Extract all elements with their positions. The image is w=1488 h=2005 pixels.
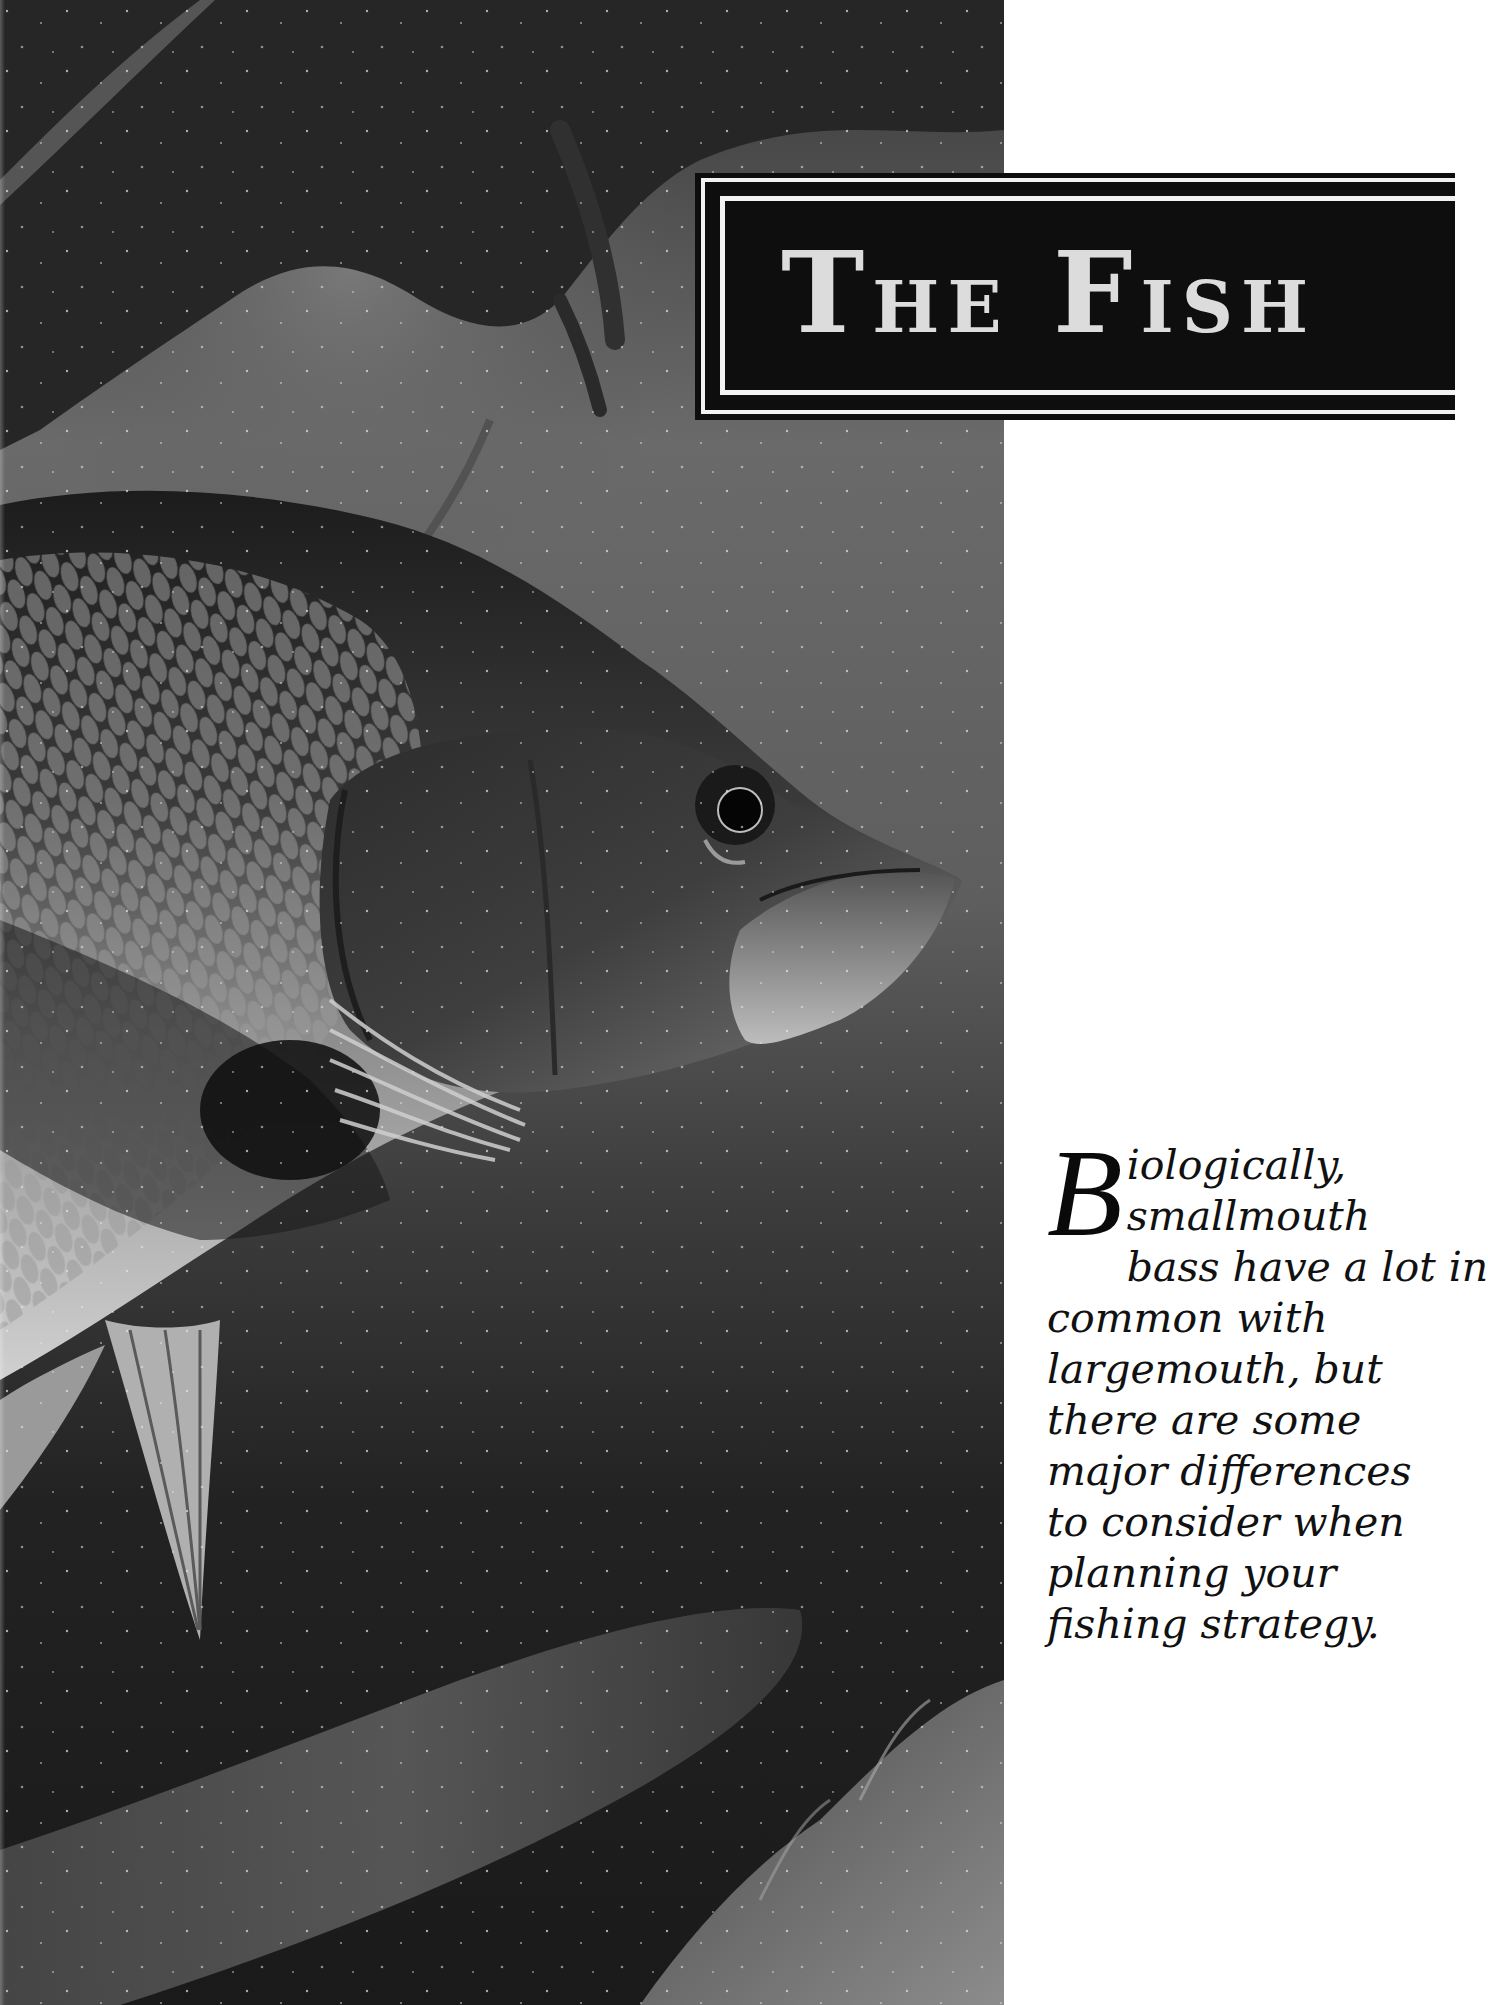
drop-cap: B xyxy=(1047,1146,1123,1246)
intro-line: planning your xyxy=(1047,1548,1467,1599)
title-banner: The Fish xyxy=(695,173,1455,420)
intro-line: major differences xyxy=(1047,1446,1467,1497)
intro-line: common with xyxy=(1047,1293,1467,1344)
intro-paragraph: B iologically, smallmouth bass have a lo… xyxy=(1047,1140,1467,1650)
page-title: The Fish xyxy=(781,243,1316,346)
intro-line: to consider when xyxy=(1047,1497,1467,1548)
title-word-2-rest: ish xyxy=(1141,236,1317,356)
intro-line: there are some xyxy=(1047,1395,1467,1446)
intro-line: largemouth, but xyxy=(1047,1344,1467,1395)
title-cap-t: T xyxy=(781,227,872,358)
binding-edge xyxy=(0,0,5,2005)
title-cap-f: F xyxy=(1053,227,1141,358)
intro-line: fishing strategy. xyxy=(1047,1599,1467,1650)
title-word-1-rest: he xyxy=(872,236,1009,356)
